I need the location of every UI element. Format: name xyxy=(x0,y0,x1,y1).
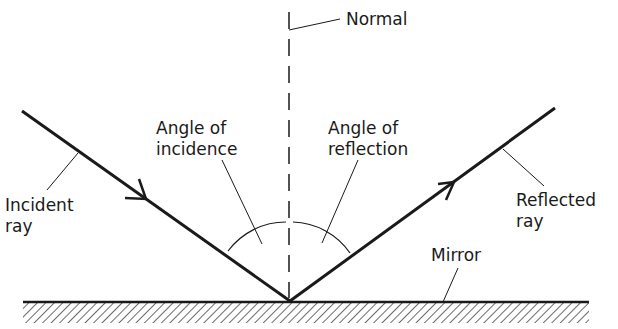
mirror xyxy=(23,302,589,323)
normal-label: Normal xyxy=(346,9,408,29)
mirror-leader xyxy=(443,268,458,302)
angle-of-incidence-arc xyxy=(228,222,286,251)
angle-of-reflection-arc xyxy=(293,222,350,253)
angle-of-reflection-label: Angle of reflection xyxy=(328,118,408,159)
normal-leader xyxy=(289,19,340,30)
angle-of-incidence-label: Angle of incidence xyxy=(156,118,237,159)
angle-of-incidence-leader xyxy=(222,160,262,244)
mirror-label: Mirror xyxy=(431,245,481,265)
reflection-diagram: Normal Incident ray Reflected ray Angle … xyxy=(0,0,618,329)
angle-of-reflection-leader xyxy=(322,160,358,243)
mirror-hatching xyxy=(23,302,589,323)
reflected-ray-leader xyxy=(503,149,544,186)
incident-ray-label: Incident ray xyxy=(5,195,79,236)
reflected-ray-label: Reflected ray xyxy=(516,190,601,231)
incident-ray-leader xyxy=(47,153,78,190)
